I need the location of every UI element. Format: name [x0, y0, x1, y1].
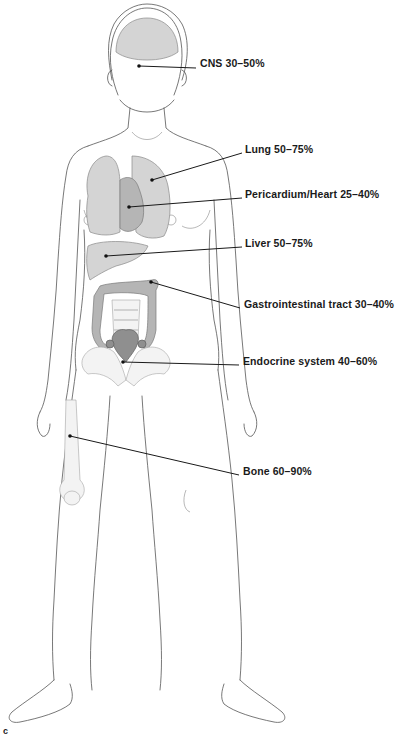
label-bone: Bone 60–90%	[243, 465, 312, 477]
anchor-dot-gi	[149, 280, 153, 284]
leader-line-lung	[152, 153, 242, 180]
leader-line-cns	[139, 66, 196, 68]
label-lung: Lung 50–75%	[245, 143, 313, 155]
leader-line-bone	[70, 436, 239, 475]
body-diagram: CNS 30–50% Lung 50–75% Pericardium/Heart…	[0, 0, 412, 744]
label-gi-tract: Gastrointestinal tract 30–40%	[244, 298, 394, 310]
anchor-dot-cns	[137, 64, 141, 68]
label-endocrine: Endocrine system 40–60%	[243, 355, 377, 367]
anchor-dot-endocrine	[121, 360, 125, 364]
human-body-illustration	[0, 0, 412, 744]
anchor-dot-liver	[104, 254, 108, 258]
label-cns: CNS 30–50%	[200, 57, 265, 69]
anchor-dot-lung	[150, 178, 154, 182]
label-heart: Pericardium/Heart 25–40%	[245, 188, 379, 200]
anchor-dot-heart	[127, 205, 131, 209]
anchor-dot-bone	[68, 434, 72, 438]
panel-letter: c	[3, 726, 8, 736]
leader-line-gi	[151, 282, 240, 308]
label-liver: Liver 50–75%	[245, 237, 313, 249]
